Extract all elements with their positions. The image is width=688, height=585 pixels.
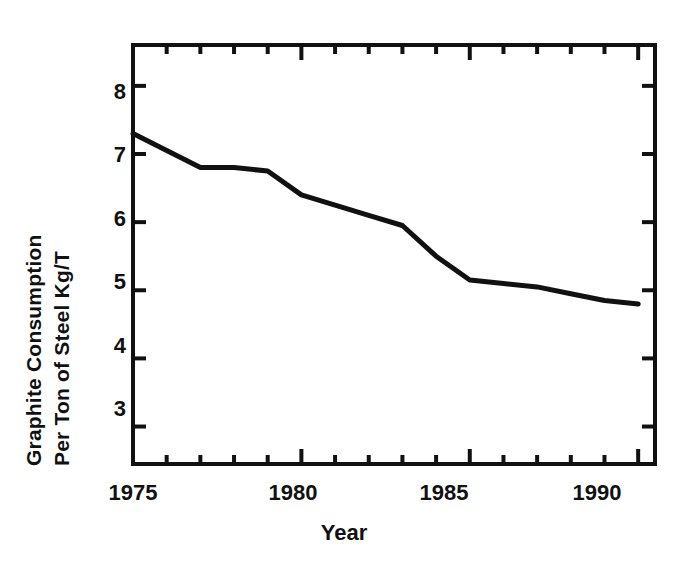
y-axis-label-line-2: Per Ton of Steel Kg/T <box>50 46 70 466</box>
y-tick-label-5: 5 <box>100 269 126 295</box>
x-tick-label-1980: 1980 <box>253 480 333 506</box>
x-tick-label-1975: 1975 <box>93 480 173 506</box>
y-tick-label-7: 7 <box>100 142 126 168</box>
plot-frame <box>133 45 655 464</box>
y-tick-label-6: 6 <box>100 206 126 232</box>
x-tick-label-1985: 1985 <box>404 480 484 506</box>
y-axis-label-line-1: Graphite Consumption <box>22 46 42 466</box>
x-axis-label: Year <box>0 520 688 546</box>
y-tick-label-4: 4 <box>100 333 126 359</box>
x-tick-label-1990: 1990 <box>557 480 637 506</box>
data-series-line <box>133 134 638 304</box>
chart-figure: Graphite Consumption Per Ton of Steel Kg… <box>0 0 688 585</box>
y-axis-ticks <box>133 86 655 427</box>
y-tick-label-3: 3 <box>100 396 126 422</box>
x-axis-ticks <box>133 45 638 464</box>
y-tick-label-8: 8 <box>100 79 126 105</box>
